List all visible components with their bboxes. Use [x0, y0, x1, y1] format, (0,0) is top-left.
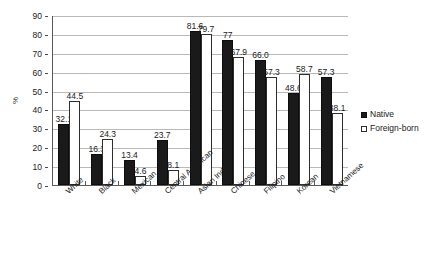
bar-foreign: 44.5: [69, 101, 80, 185]
y-axis-tick-mark: [45, 92, 48, 93]
y-axis-tick-label: 70: [33, 49, 42, 58]
legend-item: Native: [361, 110, 419, 119]
legend-item: Foreign-born: [361, 124, 419, 133]
bar-native: 66.0: [255, 60, 266, 185]
bar-native: 16.3: [91, 154, 102, 185]
y-axis-tick-label: 80: [33, 30, 42, 39]
bar-value-label: 57.3: [263, 68, 280, 77]
y-axis-tick-mark: [45, 35, 48, 36]
bar-group: 7767.9: [217, 16, 250, 185]
filled-square-icon: [361, 112, 367, 118]
bar-native: 23.7: [157, 140, 168, 185]
bar-native: 13.4: [124, 160, 135, 185]
y-axis-title: %: [11, 97, 20, 104]
bar-native: 32.1: [58, 124, 69, 185]
bar-native: 57.3: [321, 77, 332, 185]
y-axis-tick-label: 10: [33, 163, 42, 172]
bar-chart: % 0102030405060708090 32.144.516.324.313…: [0, 0, 434, 259]
bar-group: 32.144.5: [53, 16, 86, 185]
bar-value-label: 67.9: [231, 48, 248, 57]
y-axis-tick-mark: [45, 16, 48, 17]
bar-value-label: 23.7: [154, 131, 171, 140]
x-axis-category-labels: WhiteBlackMexicanCentral AmericanAsian I…: [52, 186, 348, 259]
bar-value-label: 66.0: [252, 51, 269, 60]
y-axis-tick-labels: 0102030405060708090: [24, 16, 48, 186]
y-axis-tick-label: 0: [37, 182, 42, 191]
bar-value-label: 79.7: [198, 25, 215, 34]
bar-value-label: 57.3: [318, 68, 335, 77]
bar-group: 48.658.7: [282, 16, 315, 185]
bar-value-label: 77: [223, 31, 232, 40]
bar-group: 66.057.3: [250, 16, 283, 185]
y-axis-tick-label: 50: [33, 87, 42, 96]
bar-foreign: 38.1: [332, 113, 343, 185]
bar-value-label: 38.1: [329, 104, 346, 113]
bar-group: 16.324.3: [86, 16, 119, 185]
bar-group: 23.78.1: [151, 16, 184, 185]
bar-native: 48.6: [288, 93, 299, 185]
bar-value-label: 58.7: [296, 65, 313, 74]
y-axis-tick-label: 40: [33, 106, 42, 115]
y-axis-tick-mark: [45, 167, 48, 168]
y-axis-tick-mark: [45, 54, 48, 55]
y-axis-tick-label: 20: [33, 144, 42, 153]
open-square-icon: [361, 126, 367, 132]
bar-group: 57.338.1: [315, 16, 348, 185]
y-axis-tick-label: 30: [33, 125, 42, 134]
bar-value-label: 8.1: [167, 161, 179, 170]
bar-value-label: 24.3: [99, 130, 116, 139]
bar-foreign: 58.7: [299, 74, 310, 185]
y-axis-tick-mark: [45, 148, 48, 149]
bar-value-label: 13.4: [121, 151, 138, 160]
bar-foreign: 57.3: [266, 77, 277, 185]
bar-group: 13.44.6: [119, 16, 152, 185]
y-axis-tick-label: 60: [33, 68, 42, 77]
chart-legend: NativeForeign-born: [361, 110, 419, 138]
legend-item-label: Native: [370, 110, 394, 119]
y-axis-tick-mark: [45, 110, 48, 111]
y-axis-tick-mark: [45, 73, 48, 74]
y-axis-tick-label: 90: [33, 12, 42, 21]
y-axis-tick-mark: [45, 129, 48, 130]
y-axis-tick-mark: [45, 186, 48, 187]
bar-value-label: 44.5: [67, 92, 84, 101]
legend-item-label: Foreign-born: [370, 124, 419, 133]
